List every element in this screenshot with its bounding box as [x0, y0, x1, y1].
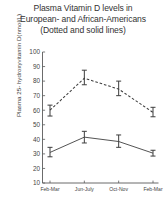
y-tick-label-6: 70: [33, 92, 41, 99]
chart-figure: Plasma Vitamin D levels in European- and…: [0, 0, 166, 206]
y-tick-label-4: 50: [33, 121, 41, 128]
x-tick-label-0: Feb-Mar: [40, 186, 60, 192]
x-tick-label-1: Jun-July: [75, 186, 94, 192]
y-tick-label-2: 30: [33, 150, 41, 157]
error-bar: [82, 70, 87, 85]
y-tick-label-5: 60: [33, 107, 41, 114]
x-axis-ticks: Feb-MarJun-JulyOct-NovFeb-Mar: [40, 181, 163, 193]
y-tick-label-7: 80: [33, 77, 41, 84]
x-tick-label-3: Feb-Mar: [143, 186, 163, 192]
error-bar: [48, 105, 53, 116]
data-series-layer: [48, 70, 156, 157]
axis-lines: [43, 52, 159, 183]
series-solid: [48, 131, 156, 156]
y-tick-label-9: 100: [29, 48, 40, 55]
error-bar: [151, 150, 156, 156]
y-tick-label-0: 10: [33, 179, 41, 186]
y-tick-label-1: 20: [33, 165, 41, 172]
x-tick-label-2: Oct-Nov: [109, 186, 128, 192]
y-tick-label-8: 90: [33, 63, 41, 70]
plot-area: 102030405060708090100 Feb-MarJun-JulyOct…: [0, 0, 166, 206]
series-dotted: [48, 70, 156, 117]
error-bar: [151, 107, 156, 116]
y-tick-label-3: 40: [33, 136, 41, 143]
